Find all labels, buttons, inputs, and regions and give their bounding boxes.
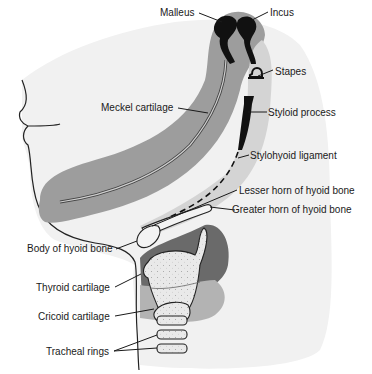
label-cricoid-cartilage: Cricoid cartilage <box>38 311 110 322</box>
label-tracheal-rings: Tracheal rings <box>46 346 109 357</box>
label-meckel-cartilage: Meckel cartilage <box>101 102 174 113</box>
label-hyoid-body: Body of hyoid bone <box>27 243 113 254</box>
label-incus: Incus <box>270 7 294 18</box>
label-malleus: Malleus <box>160 7 194 18</box>
label-thyroid-cartilage: Thyroid cartilage <box>36 282 110 293</box>
label-stylohyoid-ligament: Stylohyoid ligament <box>250 150 337 161</box>
tracheal-ring-1 <box>157 316 187 325</box>
label-stapes: Stapes <box>275 66 306 77</box>
tracheal-ring-3 <box>157 344 187 353</box>
label-lesser-horn: Lesser horn of hyoid bone <box>239 185 355 196</box>
label-greater-horn: Greater horn of hyoid bone <box>232 204 352 215</box>
label-styloid-process: Styloid process <box>268 107 336 118</box>
pharyngeal-arch-diagram: Malleus Incus Stapes Meckel cartilage St… <box>0 0 372 374</box>
tracheal-ring-2 <box>157 330 187 339</box>
